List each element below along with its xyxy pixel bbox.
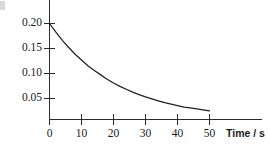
- x-tick-label-0: 0: [47, 127, 53, 139]
- x-tick-label-40: 40: [172, 127, 184, 139]
- y-tick-label-010: 0.10: [22, 66, 42, 78]
- y-tick-label-005: 0.05: [22, 91, 42, 103]
- y-tick-label-015: 0.15: [22, 41, 42, 53]
- x-tick-label-10: 10: [76, 127, 88, 139]
- decay-curve: [50, 24, 210, 111]
- crop-artifact: [0, 1, 5, 10]
- decay-chart: 0.20 0.15 0.10 0.05 0 10 20 30 40 50 Tim…: [0, 0, 270, 151]
- x-tick-label-50: 50: [204, 127, 216, 139]
- y-tick-label-020: 0.20: [22, 16, 42, 28]
- chart-canvas: 0.20 0.15 0.10 0.05 0 10 20 30 40 50 Tim…: [0, 0, 270, 151]
- x-tick-label-20: 20: [108, 127, 120, 139]
- x-axis-title: Time / s: [226, 127, 265, 139]
- x-tick-label-30: 30: [140, 127, 152, 139]
